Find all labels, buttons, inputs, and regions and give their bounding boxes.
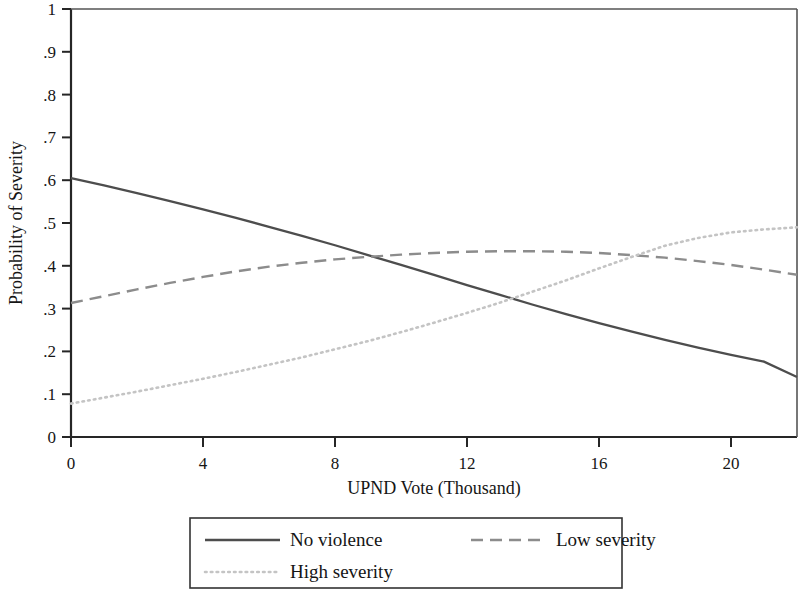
y-tick-label: .2 — [43, 342, 56, 361]
y-tick-label: .1 — [43, 385, 56, 404]
data-series-group — [71, 178, 797, 404]
legend-item-low-severity[interactable]: Low severity — [556, 529, 656, 550]
y-tick-label: .9 — [43, 43, 56, 62]
series-line-no-violence — [71, 178, 797, 377]
probability-of-severity-line-chart: 0.1.2.3.4.5.6.7.8.91 048121620 Probabili… — [0, 0, 812, 593]
y-tick-label: .6 — [43, 171, 56, 190]
y-tick-label: .3 — [43, 300, 56, 319]
x-axis-title: UPND Vote (Thousand) — [347, 478, 520, 499]
y-axis-title: Probability of Severity — [6, 141, 26, 305]
legend-item-high-severity[interactable]: High severity — [290, 561, 393, 582]
x-tick-label: 12 — [459, 454, 476, 473]
chart-figure: 0.1.2.3.4.5.6.7.8.91 048121620 Probabili… — [0, 0, 812, 593]
y-tick-label: .4 — [43, 257, 56, 276]
x-axis-ticks: 048121620 — [67, 437, 740, 473]
legend-item-no-violence[interactable]: No violence — [290, 529, 382, 550]
y-tick-label: 0 — [48, 428, 57, 447]
x-tick-label: 4 — [199, 454, 208, 473]
x-tick-label: 16 — [591, 454, 608, 473]
legend: No violence Low severity High severity — [190, 518, 656, 588]
y-tick-label: .8 — [43, 86, 56, 105]
x-tick-label: 20 — [723, 454, 740, 473]
series-line-low-severity — [71, 251, 797, 303]
y-tick-label: 1 — [48, 0, 57, 19]
x-tick-label: 8 — [331, 454, 340, 473]
y-axis-ticks: 0.1.2.3.4.5.6.7.8.91 — [43, 0, 71, 447]
x-tick-label: 0 — [67, 454, 76, 473]
y-tick-label: .7 — [43, 128, 56, 147]
plot-frame — [71, 9, 797, 437]
y-tick-label: .5 — [43, 214, 56, 233]
